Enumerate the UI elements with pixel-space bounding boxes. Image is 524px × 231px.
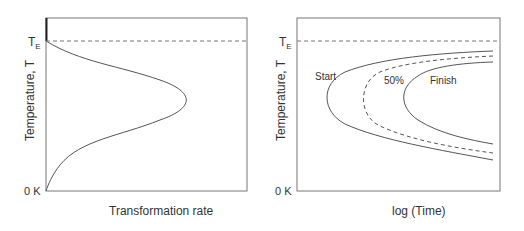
transformation-rate-curve xyxy=(46,41,186,191)
left-zero-tick: 0 K xyxy=(24,185,41,197)
left-te-tick: TE xyxy=(28,35,41,51)
right-plot: Start 50% Finish TE 0 K Temperature, T l… xyxy=(274,18,500,218)
right-plot-frame xyxy=(297,18,500,191)
left-x-axis-label: Transformation rate xyxy=(109,204,214,218)
right-zero-tick: 0 K xyxy=(275,185,292,197)
right-te-tick: TE xyxy=(279,35,292,51)
finish-label: Finish xyxy=(430,75,457,86)
ttt-diagram: TE 0 K Temperature, T Transformation rat… xyxy=(0,0,524,231)
left-y-axis-label: Temperature, T xyxy=(23,59,37,141)
left-plot: TE 0 K Temperature, T Transformation rat… xyxy=(23,18,247,218)
right-x-axis-label: log (Time) xyxy=(392,204,446,218)
left-plot-frame xyxy=(46,18,247,191)
half-label: 50% xyxy=(384,75,404,86)
right-y-axis-label: Temperature, T xyxy=(274,59,288,141)
start-curve xyxy=(327,51,493,160)
start-label: Start xyxy=(315,71,336,82)
